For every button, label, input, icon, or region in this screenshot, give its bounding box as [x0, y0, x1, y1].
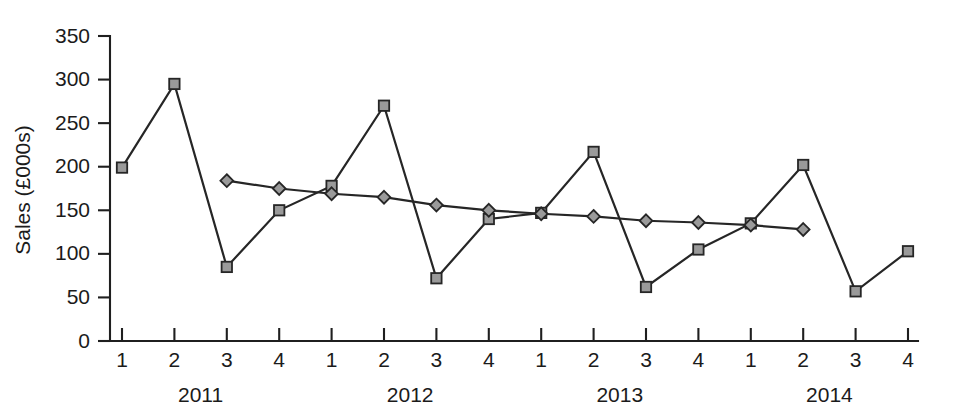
x-axis-year-label: 2011	[178, 383, 223, 406]
data-point-marker-square	[117, 162, 127, 172]
x-tick-label: 1	[116, 348, 128, 371]
chart-canvas: 050100150200250300350 1234123412341234 2…	[0, 0, 971, 417]
data-point-marker-square	[588, 147, 598, 157]
data-point-marker-diamond	[640, 214, 653, 227]
data-point-marker-diamond	[692, 216, 705, 229]
y-tick-label: 250	[55, 111, 90, 134]
data-point-marker-diamond	[273, 182, 286, 195]
y-tick-label: 0	[78, 329, 90, 352]
x-tick-label: 2	[797, 348, 809, 371]
x-tick-label: 1	[745, 348, 757, 371]
x-axis-year-label: 2013	[596, 383, 643, 406]
y-tick-label: 200	[55, 154, 90, 177]
x-tick-label: 4	[483, 348, 495, 371]
data-point-marker-square	[379, 101, 389, 111]
data-point-marker-diamond	[797, 223, 810, 236]
y-tick-label: 150	[55, 198, 90, 221]
series-line-diamond	[227, 181, 803, 230]
x-tick-label: 1	[326, 348, 338, 371]
x-tick-label: 3	[640, 348, 652, 371]
data-point-marker-diamond	[378, 191, 391, 204]
data-point-marker-square	[903, 246, 913, 256]
y-axis-ticks: 050100150200250300350	[55, 24, 110, 352]
data-point-marker-square	[798, 160, 808, 170]
x-tick-label: 4	[902, 348, 914, 371]
y-axis-title: Sales (£000s)	[11, 125, 34, 255]
data-point-marker-square	[850, 286, 860, 296]
y-tick-label: 50	[67, 285, 90, 308]
x-tick-label: 3	[431, 348, 443, 371]
x-tick-label: 4	[273, 348, 285, 371]
x-tick-label: 2	[378, 348, 390, 371]
chart-axes	[110, 36, 918, 341]
x-tick-label: 3	[221, 348, 233, 371]
data-point-marker-square	[274, 205, 284, 215]
data-point-marker-square	[222, 262, 232, 272]
x-tick-label: 2	[169, 348, 181, 371]
data-point-marker-diamond	[587, 210, 600, 223]
x-tick-label: 3	[850, 348, 862, 371]
data-point-marker-square	[169, 79, 179, 89]
x-tick-label: 2	[588, 348, 600, 371]
sales-line-chart: 050100150200250300350 1234123412341234 2…	[0, 0, 971, 417]
x-axis-ticks: 1234123412341234	[116, 328, 914, 371]
x-axis-group-labels: 2011201220132014	[178, 383, 853, 406]
series-line-square	[122, 84, 908, 291]
data-point-marker-square	[641, 282, 651, 292]
y-tick-label: 350	[55, 24, 90, 47]
data-point-marker-square	[431, 273, 441, 283]
y-tick-label: 100	[55, 241, 90, 264]
x-axis-year-label: 2012	[387, 383, 434, 406]
data-point-marker-diamond	[220, 174, 233, 187]
data-point-marker-diamond	[430, 199, 443, 212]
x-tick-label: 4	[693, 348, 705, 371]
y-tick-label: 300	[55, 67, 90, 90]
chart-series	[117, 79, 913, 297]
x-axis-year-label: 2014	[806, 383, 853, 406]
x-tick-label: 1	[535, 348, 547, 371]
data-point-marker-square	[693, 244, 703, 254]
